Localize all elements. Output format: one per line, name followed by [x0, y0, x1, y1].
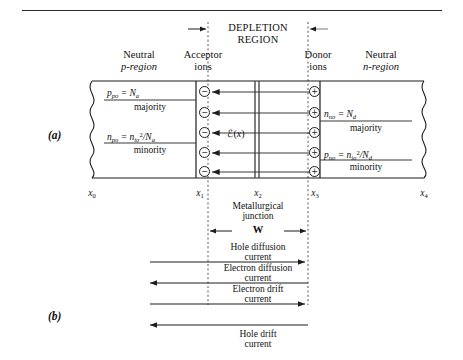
donor-line2: ions: [305, 61, 332, 73]
neutral-p-region-heading: Neutral p-region: [121, 49, 157, 72]
panel-b-label: (b): [48, 310, 61, 322]
acceptor-line2: ions: [184, 61, 222, 73]
depletion-heading-line1: DEPLETION: [228, 22, 288, 34]
n-region-minority-label: minority: [350, 162, 383, 172]
electron-drift-line1: Electron drift: [233, 284, 284, 294]
n-minority-den-sub: d: [369, 154, 372, 161]
neutral-n-line2: n-region: [363, 61, 399, 73]
p-minority-subscript: po: [112, 136, 119, 143]
neutral-p-line1: Neutral: [121, 49, 157, 61]
efield-symbol: ℰ(: [227, 128, 236, 139]
metallurgical-junction-caption: Metallurgical junction: [232, 201, 283, 221]
p-minority-den-sub: a: [152, 136, 155, 143]
donor-ion: +: [309, 127, 320, 138]
acceptor-line1: Acceptor: [184, 49, 222, 61]
n-majority-subscript: no: [329, 113, 336, 120]
donor-ion-glyph: +: [311, 128, 318, 137]
p-region-minority-label: minority: [134, 145, 167, 155]
acceptor-ions-heading: Acceptor ions: [184, 49, 222, 72]
p-region-majority-label: majority: [134, 102, 166, 112]
neutral-p-line2: p-region: [121, 61, 157, 73]
electric-field-label: ℰ(x): [227, 128, 244, 139]
acceptor-ion-glyph: −: [201, 128, 208, 137]
p-region-minority-expression: npo = nio2/Na: [107, 130, 155, 145]
donor-line1: Donor: [305, 49, 332, 61]
acceptor-ion-glyph: −: [201, 167, 208, 176]
axis-tick-x3: x3: [311, 188, 319, 199]
depletion-width-label: W: [253, 224, 264, 235]
n-minority-subscript: no: [329, 154, 336, 161]
hole-diffusion-line2: current: [231, 252, 286, 262]
donor-ions-heading: Donor ions: [305, 49, 332, 72]
axis-tick-x4: x4: [420, 188, 428, 199]
electron-drift-current-label: Electron drift current: [233, 284, 284, 304]
depletion-inner-walls: [196, 81, 320, 178]
donor-ion-glyph: +: [311, 108, 318, 117]
n-minority-den: /N: [360, 150, 369, 160]
electron-drift-line2: current: [233, 294, 284, 304]
n-region-majority-expression: nno = Nd: [324, 109, 356, 122]
electron-diffusion-current-label: Electron diffusion current: [224, 263, 293, 283]
axis-tick-x1: x1: [196, 188, 204, 199]
wavy-edge-right: [422, 81, 426, 178]
p-majority-equals: = N: [121, 88, 136, 98]
acceptor-ion: −: [199, 107, 210, 118]
junction-caption-line1: Metallurgical: [232, 201, 283, 211]
p-region-majority-expression: ppo = Na: [107, 88, 139, 101]
acceptor-ion: −: [199, 127, 210, 138]
p-minority-equals: = n: [121, 132, 135, 142]
hole-diffusion-line1: Hole diffusion: [231, 242, 286, 252]
metallurgical-junction-line: [255, 81, 259, 178]
axis-tick-x0: x0: [88, 188, 96, 199]
donor-ion-glyph: +: [311, 167, 318, 176]
acceptor-ion: −: [199, 147, 210, 158]
electron-diffusion-line2: current: [224, 273, 293, 283]
n-majority-equals-sub: d: [353, 113, 356, 120]
acceptor-ion-glyph: −: [201, 108, 208, 117]
panel-a-label: (a): [48, 129, 61, 141]
donor-ion: +: [309, 86, 320, 97]
n-region-minority-expression: pno = nio2/Nd: [324, 148, 372, 163]
p-majority-equals-sub: a: [136, 92, 139, 99]
donor-ion: +: [309, 147, 320, 158]
hole-drift-current-label: Hole drift current: [239, 329, 276, 349]
neutral-n-line1: Neutral: [363, 49, 399, 61]
donor-ion: +: [309, 107, 320, 118]
electron-diffusion-line1: Electron diffusion: [224, 263, 293, 273]
n-majority-equals: = N: [338, 109, 353, 119]
junction-caption-line2: junction: [232, 211, 283, 221]
n-minority-equals: = n: [338, 150, 352, 160]
donor-ion: +: [309, 166, 320, 177]
acceptor-ion-glyph: −: [201, 87, 208, 96]
wavy-edge-left: [90, 81, 94, 178]
pn-junction-figure: DEPLETION REGION Neutral p-region Accept…: [0, 0, 463, 360]
acceptor-ion-glyph: −: [201, 148, 208, 157]
donor-ion-glyph: +: [311, 148, 318, 157]
hole-drift-line1: Hole drift: [239, 329, 276, 339]
efield-close-paren: ): [241, 128, 244, 139]
hole-diffusion-current-label: Hole diffusion current: [231, 242, 286, 262]
donor-ion-glyph: +: [311, 87, 318, 96]
axis-tick-x2: x2: [254, 188, 262, 199]
depletion-heading-line2: REGION: [228, 34, 288, 46]
hole-drift-line2: current: [239, 339, 276, 349]
n-region-majority-label: majority: [350, 123, 382, 133]
p-minority-den: /N: [143, 132, 152, 142]
p-majority-subscript: po: [112, 92, 119, 99]
neutral-n-region-heading: Neutral n-region: [363, 49, 399, 72]
acceptor-ion: −: [199, 86, 210, 97]
depletion-region-heading: DEPLETION REGION: [228, 22, 288, 45]
acceptor-ion: −: [199, 166, 210, 177]
